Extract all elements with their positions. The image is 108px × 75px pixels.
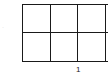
grid-line-v3	[77, 4, 78, 62]
y-axis-label: ·	[2, 24, 4, 30]
grid-line-middle	[22, 32, 108, 33]
grid-line-v2	[50, 4, 51, 62]
x-axis-label: 1	[76, 65, 80, 74]
grid-line-top	[22, 4, 108, 5]
grid-line-v4	[105, 4, 106, 62]
grid-line-v1	[22, 4, 23, 62]
grid-line-bottom	[22, 61, 108, 62]
